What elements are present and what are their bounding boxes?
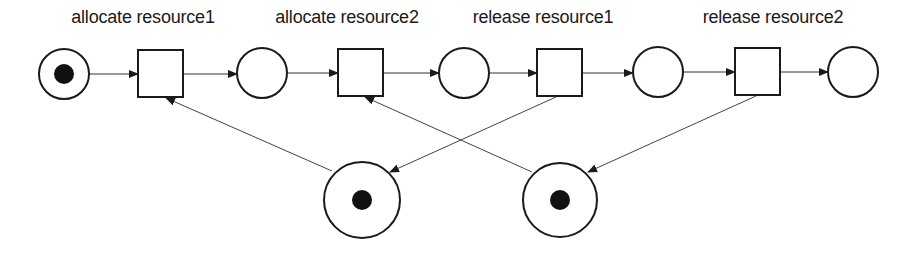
token-resource2 — [550, 190, 570, 210]
transition-t1 — [138, 50, 183, 97]
petri-net-diagram: allocate resource1 allocate resource2 re… — [0, 0, 910, 253]
transition-label-t4: release resource2 — [703, 7, 844, 28]
resource-arcs — [166, 96, 756, 172]
place-p4 — [633, 47, 683, 97]
arc-t3-resource1 — [390, 97, 556, 172]
transition-t2 — [338, 49, 383, 96]
arc-resource1-t1 — [166, 98, 332, 171]
arc-t4-resource2 — [588, 96, 756, 172]
place-p2 — [237, 48, 287, 98]
token-p1 — [54, 64, 74, 84]
transition-label-t3: release resource1 — [473, 7, 614, 28]
token-resource1 — [352, 190, 372, 210]
transition-t3 — [537, 49, 582, 96]
transition-label-t2: allocate resource2 — [275, 7, 419, 28]
place-p5 — [828, 47, 878, 97]
transition-label-t1: allocate resource1 — [71, 7, 215, 28]
arc-resource2-t2 — [365, 97, 532, 172]
diagram-canvas — [0, 0, 910, 253]
transition-t4 — [735, 48, 780, 95]
place-p3 — [439, 48, 489, 98]
